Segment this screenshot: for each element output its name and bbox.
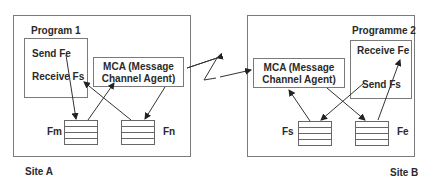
arrow-send-fe-to-fm bbox=[66, 55, 76, 119]
arrow-fs-to-mca-b bbox=[289, 90, 310, 121]
arrow-mca-a-to-fn bbox=[145, 87, 165, 119]
arrow-fn-to-receive-fs bbox=[84, 82, 131, 120]
lightning-link-icon bbox=[187, 58, 217, 80]
lightning-to-mca-b bbox=[220, 70, 251, 77]
arrow-mca-b-to-fe bbox=[327, 88, 365, 120]
arrows-overlay bbox=[0, 0, 435, 182]
arrow-fe-to-receive-fe bbox=[378, 60, 400, 120]
